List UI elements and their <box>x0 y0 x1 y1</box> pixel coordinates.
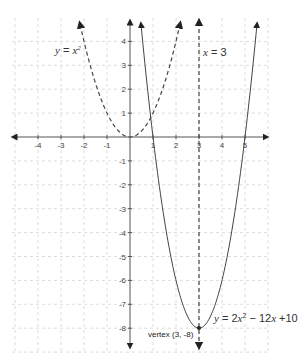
label-main-equation: y = 2x2 − 12x +10 <box>213 312 298 324</box>
x-tick-label: -2 <box>80 141 88 150</box>
x-tick-label: -3 <box>57 141 65 150</box>
y-tick-label: -7 <box>119 300 127 309</box>
y-tick-label: 4 <box>122 37 127 46</box>
x-tick-label: 2 <box>174 141 179 150</box>
label-x-equals-3: x = 3 <box>202 46 227 58</box>
y-tick-label: 2 <box>122 85 127 94</box>
x-tick-label: -1 <box>103 141 111 150</box>
y-tick-label: -6 <box>119 276 127 285</box>
label-vertex: vertex (3, -8) <box>148 330 194 339</box>
coordinate-plane: -4-3-2-112345 4321-1-2-3-4-5-6-7-8 y = x… <box>0 0 300 363</box>
y-tick-label: -1 <box>119 157 127 166</box>
x-tick-label: -4 <box>34 141 42 150</box>
y-tick-label: 3 <box>122 61 127 70</box>
y-tick-label: -4 <box>119 229 127 238</box>
y-tick-label: 1 <box>122 109 127 118</box>
y-tick-label: -8 <box>119 324 127 333</box>
y-tick-label: -2 <box>119 181 127 190</box>
grid <box>12 18 270 352</box>
vertex-point <box>197 326 201 330</box>
label-y-equals-x-squared: y = x2 <box>54 44 81 56</box>
x-tick-label: 4 <box>220 141 225 150</box>
y-tick-label: -5 <box>119 253 127 262</box>
y-tick-label: -3 <box>119 205 127 214</box>
